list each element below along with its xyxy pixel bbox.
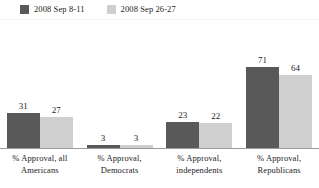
bar-value-label: 31: [19, 102, 28, 111]
bar-wrap-democrats-series-1: 3: [120, 22, 153, 148]
legend-swatch-icon-series-0: [20, 5, 29, 14]
bar-chart: 2008 Sep 8-11 2008 Sep 26-27 31 27 3: [0, 0, 319, 188]
bar-wrap-all-americans-series-0: 31: [7, 22, 40, 148]
category-label-line2: independents: [176, 165, 222, 175]
bar-republicans-series-0: [246, 67, 279, 148]
bar-all-americans-series-0: [7, 113, 40, 148]
bar-group-republicans: 71 64: [239, 22, 319, 148]
category-label-line1: % Approval,: [98, 153, 142, 163]
category-label-line1: % Approval,: [257, 153, 301, 163]
bar-value-label: 23: [178, 111, 187, 120]
x-axis-category-labels: % Approval, all Americans % Approval, De…: [0, 153, 319, 186]
plot-area: 31 27 3 3 23 22: [0, 22, 319, 148]
bar-value-label: 64: [291, 64, 300, 73]
bar-wrap-all-americans-series-1: 27: [40, 22, 73, 148]
bar-value-label: 22: [211, 112, 220, 121]
legend-swatch-icon-series-1: [107, 5, 116, 14]
bar-value-label: 27: [52, 106, 61, 115]
category-label-independents: % Approval, independents: [160, 153, 240, 186]
x-axis-line: [0, 148, 319, 149]
bar-all-americans-series-1: [40, 117, 73, 148]
bar-republicans-series-1: [279, 75, 312, 148]
bar-value-label: 3: [101, 134, 106, 143]
category-label-line2: Republicans: [258, 165, 301, 175]
bar-group-independents: 23 22: [160, 22, 240, 148]
category-label-line1: % Approval, all: [12, 153, 67, 163]
bar-value-label: 3: [134, 134, 139, 143]
bar-wrap-republicans-series-1: 64: [279, 22, 312, 148]
bar-wrap-democrats-series-0: 3: [87, 22, 120, 148]
category-label-line2: Americans: [21, 165, 59, 175]
bar-wrap-independents-series-1: 22: [199, 22, 232, 148]
legend-label-series-1: 2008 Sep 26-27: [121, 5, 176, 14]
category-label-republicans: % Approval, Republicans: [239, 153, 319, 186]
bar-wrap-republicans-series-0: 71: [246, 22, 279, 148]
category-label-line1: % Approval,: [177, 153, 221, 163]
bar-wrap-independents-series-0: 23: [166, 22, 199, 148]
legend-item-series-0: 2008 Sep 8-11: [20, 5, 85, 14]
legend-item-series-1: 2008 Sep 26-27: [107, 5, 176, 14]
legend-label-series-0: 2008 Sep 8-11: [34, 5, 85, 14]
category-label-democrats: % Approval, Democrats: [80, 153, 160, 186]
category-label-line2: Democrats: [101, 165, 139, 175]
category-label-all-americans: % Approval, all Americans: [0, 153, 80, 186]
bar-independents-series-1: [199, 123, 232, 148]
bar-group-democrats: 3 3: [80, 22, 160, 148]
bar-independents-series-0: [166, 122, 199, 148]
bar-value-label: 71: [258, 56, 267, 65]
legend-divider: [0, 19, 319, 20]
chart-legend: 2008 Sep 8-11 2008 Sep 26-27: [0, 0, 319, 18]
bar-group-all-americans: 31 27: [0, 22, 80, 148]
